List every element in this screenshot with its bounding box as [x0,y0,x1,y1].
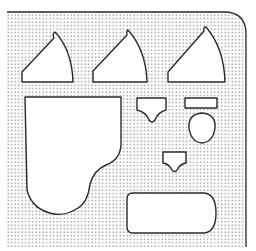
stencil-svg [0,0,256,251]
stencil-figure [0,0,256,251]
egg-shape [189,113,215,143]
small-rectangle-shape [185,98,217,108]
rounded-rectangle-shape [127,193,216,233]
